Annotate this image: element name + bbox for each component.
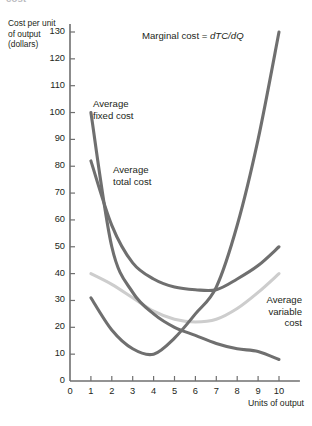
y-tick-label: 30 [43,294,65,304]
annotation-marginal-cost: Marginal cost = dTC/dQ [142,30,244,42]
y-tick-label: 10 [43,348,65,358]
y-tick-label: 60 [43,214,65,224]
x-tick-label: 1 [83,386,99,396]
y-tick-label: 70 [43,187,65,197]
annotation-average-fixed-cost: Average fixed cost [93,98,134,121]
y-tick-label: 50 [43,241,65,251]
annotation-marginal-cost-formula: dTC/dQ [210,30,244,41]
x-tick-label: 5 [167,386,183,396]
x-tick-label: 6 [187,386,203,396]
x-tick-label: 7 [208,386,224,396]
annotation-marginal-cost-prefix: Marginal cost = [142,30,210,41]
x-tick-label: 2 [104,386,120,396]
y-tick-label: 100 [43,107,65,117]
y-tick-label: 120 [43,53,65,63]
cost-curves-figure: cost Cost per unit of output (dollars) A… [0,0,312,426]
x-axis-title: Units of output [248,398,304,408]
x-tick-label: 8 [229,386,245,396]
x-tick-label: 3 [125,386,141,396]
y-tick-label: 130 [43,26,65,36]
y-tick-label: 80 [43,160,65,170]
annotation-average-variable-cost: Average variable cost [228,294,302,329]
y-tick-label: 110 [43,80,65,90]
y-tick-label: 40 [43,268,65,278]
y-tick-label: 90 [43,133,65,143]
x-tick-label: 0 [62,386,78,396]
x-tick-label: 4 [146,386,162,396]
y-tick-label: 0 [43,375,65,385]
x-tick-label: 9 [250,386,266,396]
y-tick-label: 20 [43,321,65,331]
annotation-average-total-cost: Average total cost [113,164,151,187]
x-tick-label: 10 [271,386,287,396]
